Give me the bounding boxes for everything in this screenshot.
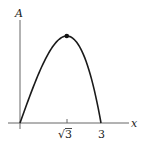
tick-label-sqrt3: √ 3 — [58, 128, 72, 141]
maximum-point — [64, 34, 69, 39]
svg-text:3: 3 — [65, 128, 72, 141]
y-axis-label: A — [14, 7, 23, 20]
chart-area: A x √ 3 3 — [0, 0, 143, 144]
curve-A-of-x — [20, 36, 101, 123]
x-axis-label: x — [131, 117, 138, 130]
tick-label-3: 3 — [98, 128, 105, 141]
